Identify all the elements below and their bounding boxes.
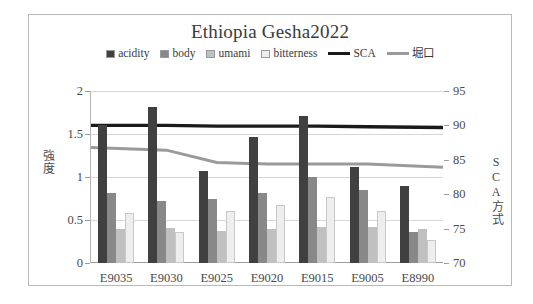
x-axis-tick-label: E8990: [393, 271, 443, 286]
y2-axis-tick-label: 90: [453, 119, 466, 132]
bar-umami[interactable]: [418, 229, 427, 263]
bar-umami[interactable]: [116, 229, 125, 263]
legend-item-label: 堀口: [412, 48, 434, 60]
bar-stack: [393, 91, 443, 263]
bar-bitterness[interactable]: [427, 240, 436, 263]
y-axis-title-left: 強度: [39, 149, 56, 175]
y2-axis-tick-mark: [444, 160, 449, 161]
bar-bitterness[interactable]: [226, 211, 235, 263]
y-axis-tick-mark: [85, 134, 90, 135]
bar-body[interactable]: [359, 190, 368, 263]
bar-body[interactable]: [157, 201, 166, 263]
bar-umami[interactable]: [217, 231, 226, 263]
y-axis-tick-label: 0.5: [67, 214, 83, 227]
y2-axis-tick-mark: [444, 263, 449, 264]
y2-axis-tick-label: 95: [453, 85, 466, 98]
bar-umami[interactable]: [368, 227, 377, 263]
legend-item-5[interactable]: SCA: [328, 48, 375, 60]
y2-axis-tick-mark: [444, 91, 449, 92]
x-axis-tick-label: E9025: [192, 271, 242, 286]
legend-swatch-icon: [261, 50, 270, 58]
plot-area: 00.511.52707580859095E9035E9030E9025E902…: [91, 91, 443, 263]
y2-axis-tick-label: 80: [453, 188, 466, 201]
x-axis-tick-label: E9005: [342, 271, 392, 286]
y2-axis-tick-mark: [444, 229, 449, 230]
legend-item-2[interactable]: body: [160, 48, 195, 60]
y2-axis-tick-mark: [444, 125, 449, 126]
bar-group: E9005: [342, 91, 392, 263]
bar-bitterness[interactable]: [125, 213, 134, 263]
y-axis-title-right: SCA方式: [488, 155, 505, 226]
x-axis-tick-label: E9015: [292, 271, 342, 286]
y-axis-tick-mark: [85, 220, 90, 221]
legend-item-6[interactable]: 堀口: [387, 48, 434, 60]
bar-acidity[interactable]: [249, 137, 258, 263]
x-axis-tick-label: E9035: [91, 271, 141, 286]
y2-axis-tick-label: 70: [453, 257, 466, 270]
legend-item-1[interactable]: acidity: [106, 48, 149, 60]
bar-acidity[interactable]: [350, 167, 359, 263]
y-axis-tick-label: 2: [77, 85, 83, 98]
legend-swatch-icon: [206, 50, 215, 58]
y-axis-tick-mark: [85, 263, 90, 264]
bar-bitterness[interactable]: [175, 232, 184, 263]
y-axis-tick-mark: [85, 177, 90, 178]
bar-group: E9015: [292, 91, 342, 263]
y2-axis-tick-label: 75: [453, 223, 466, 236]
bar-group: E9025: [192, 91, 242, 263]
bar-body[interactable]: [107, 193, 116, 263]
legend-swatch-icon: [106, 50, 115, 58]
y-axis-tick-label: 0: [77, 257, 83, 270]
legend-swatch-icon: [328, 52, 350, 55]
y-axis-tick-label: 1.5: [67, 128, 83, 141]
bar-bitterness[interactable]: [276, 205, 285, 263]
legend-item-label: body: [172, 48, 195, 60]
bar-acidity[interactable]: [98, 125, 107, 263]
bar-body[interactable]: [258, 193, 267, 263]
bar-group: E8990: [393, 91, 443, 263]
bar-stack: [91, 91, 141, 263]
y2-axis-tick-label: 85: [453, 154, 466, 167]
legend-item-label: acidity: [118, 48, 149, 60]
bar-stack: [141, 91, 191, 263]
bar-umami[interactable]: [267, 229, 276, 263]
bar-bitterness[interactable]: [377, 211, 386, 263]
chart-frame: Ethiopia Gesha2022 aciditybodyumamibitte…: [28, 14, 512, 286]
legend-item-4[interactable]: bitterness: [261, 48, 317, 60]
bar-bitterness[interactable]: [326, 197, 335, 263]
bar-acidity[interactable]: [199, 171, 208, 263]
bar-stack: [192, 91, 242, 263]
y-axis-tick-label: 1: [77, 171, 83, 184]
x-axis-tick-label: E9030: [141, 271, 191, 286]
y2-axis-tick-mark: [444, 194, 449, 195]
legend-item-label: umami: [218, 48, 250, 60]
bar-umami[interactable]: [317, 227, 326, 263]
bar-stack: [242, 91, 292, 263]
bar-stack: [292, 91, 342, 263]
bar-umami[interactable]: [166, 228, 175, 263]
chart-title: Ethiopia Gesha2022: [29, 21, 511, 43]
legend-swatch-icon: [387, 52, 409, 55]
legend-item-label: bitterness: [273, 48, 317, 60]
bar-group: E9020: [242, 91, 292, 263]
bar-stack: [342, 91, 392, 263]
bar-acidity[interactable]: [299, 116, 308, 263]
bar-acidity[interactable]: [400, 186, 409, 263]
bar-acidity[interactable]: [148, 107, 157, 263]
legend-item-label: SCA: [353, 48, 375, 60]
legend-item-3[interactable]: umami: [206, 48, 250, 60]
bar-group: E9030: [141, 91, 191, 263]
x-axis-tick-label: E9020: [242, 271, 292, 286]
bar-group: E9035: [91, 91, 141, 263]
bar-body[interactable]: [208, 199, 217, 264]
bar-body[interactable]: [308, 177, 317, 263]
legend-swatch-icon: [160, 50, 169, 58]
bar-body[interactable]: [409, 232, 418, 263]
chart-legend: aciditybodyumamibitternessSCA堀口: [29, 48, 511, 60]
y-axis-tick-mark: [85, 91, 90, 92]
